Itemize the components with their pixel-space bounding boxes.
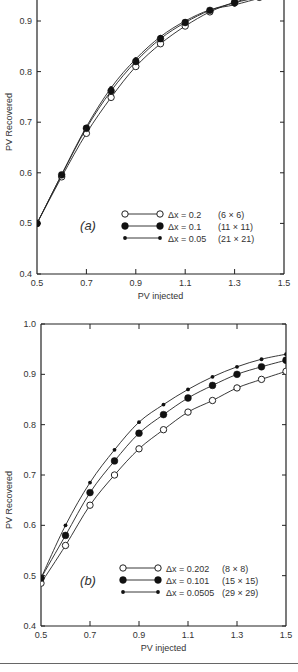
data-point bbox=[235, 365, 239, 369]
data-point bbox=[88, 481, 92, 485]
panel-label: (b) bbox=[80, 573, 96, 588]
legend-label: Δx = 0.0505 bbox=[166, 588, 214, 598]
legend-marker bbox=[121, 590, 125, 594]
data-point bbox=[185, 409, 191, 415]
y-tick-label: 0.8 bbox=[23, 420, 36, 430]
series-line bbox=[41, 360, 286, 578]
data-point bbox=[62, 542, 68, 548]
legend-marker bbox=[156, 590, 160, 594]
data-point bbox=[111, 458, 118, 465]
x-axis-label: PV injected bbox=[141, 643, 187, 653]
data-point bbox=[234, 371, 241, 378]
y-tick-label: 0.7 bbox=[23, 470, 36, 480]
data-point bbox=[284, 352, 288, 356]
figure: 0.50.70.91.11.31.50.40.50.60.70.80.9PV i… bbox=[0, 0, 298, 672]
legend-marker bbox=[120, 577, 127, 584]
data-point bbox=[64, 523, 68, 527]
separator-line bbox=[0, 663, 298, 664]
legend-marker bbox=[120, 565, 126, 571]
y-axis-label: PV Recovered bbox=[4, 471, 14, 529]
data-point bbox=[209, 397, 215, 403]
x-tick-label: 0.7 bbox=[84, 630, 97, 640]
data-point bbox=[87, 502, 93, 508]
legend-grid-size: (29 × 29) bbox=[222, 588, 258, 598]
legend-label: Δx = 0.101 bbox=[166, 576, 209, 586]
data-point bbox=[258, 376, 264, 382]
x-tick-label: 1.5 bbox=[280, 630, 293, 640]
y-tick-label: 0.9 bbox=[23, 369, 36, 379]
data-point bbox=[136, 430, 143, 437]
data-point bbox=[234, 385, 240, 391]
y-tick-label: 0.5 bbox=[23, 571, 36, 581]
data-point bbox=[87, 489, 94, 496]
data-point bbox=[283, 368, 289, 374]
data-point bbox=[162, 403, 166, 407]
x-tick-label: 0.5 bbox=[35, 630, 48, 640]
data-point bbox=[137, 420, 141, 424]
data-point bbox=[136, 446, 142, 452]
data-point bbox=[62, 532, 69, 539]
legend-label: Δx = 0.202 bbox=[166, 564, 209, 574]
data-point bbox=[160, 427, 166, 433]
data-point bbox=[258, 363, 265, 370]
data-point bbox=[209, 382, 216, 389]
x-tick-label: 0.9 bbox=[133, 630, 146, 640]
data-point bbox=[211, 375, 215, 379]
y-tick-label: 1.0 bbox=[23, 319, 36, 329]
x-tick-label: 1.3 bbox=[231, 630, 244, 640]
plot-area bbox=[38, 352, 290, 586]
x-tick-label: 1.1 bbox=[182, 630, 195, 640]
data-point bbox=[113, 448, 117, 452]
chart-b: 0.50.70.91.11.31.50.40.50.60.70.80.91.0P… bbox=[0, 0, 298, 672]
legend-marker bbox=[155, 565, 161, 571]
legend-marker bbox=[155, 577, 162, 584]
data-point bbox=[39, 576, 43, 580]
y-tick-label: 0.4 bbox=[23, 621, 36, 631]
data-point bbox=[260, 357, 264, 361]
series-line bbox=[41, 354, 286, 578]
legend-grid-size: (8 × 8) bbox=[222, 564, 248, 574]
legend-grid-size: (15 × 15) bbox=[222, 576, 258, 586]
data-point bbox=[160, 411, 167, 418]
data-point bbox=[111, 472, 117, 478]
data-point bbox=[186, 388, 190, 392]
data-point bbox=[283, 357, 290, 364]
data-point bbox=[185, 395, 192, 402]
y-tick-label: 0.6 bbox=[23, 520, 36, 530]
